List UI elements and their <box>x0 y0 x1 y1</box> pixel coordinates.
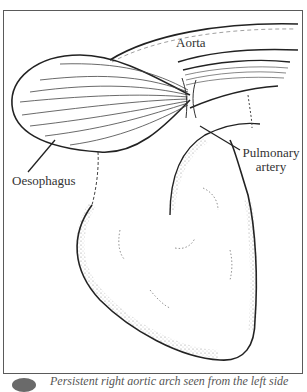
oesophagus-label: Oesophagus <box>12 174 76 187</box>
caption-marker-icon <box>12 378 36 392</box>
oesophagus <box>12 55 196 152</box>
pulmonary-label-line2: artery <box>241 160 301 174</box>
figure-caption: Persistent right aortic arch seen from t… <box>50 374 288 389</box>
pulmonary-artery-label: Pulmonary artery <box>241 146 301 174</box>
pulmonary-label-line1: Pulmonary <box>241 146 301 160</box>
pulmonary-leader-line <box>200 126 240 150</box>
heart-shape <box>77 140 256 360</box>
aorta-label: Aorta <box>176 36 206 49</box>
oesophagus-leader-line <box>28 140 55 172</box>
